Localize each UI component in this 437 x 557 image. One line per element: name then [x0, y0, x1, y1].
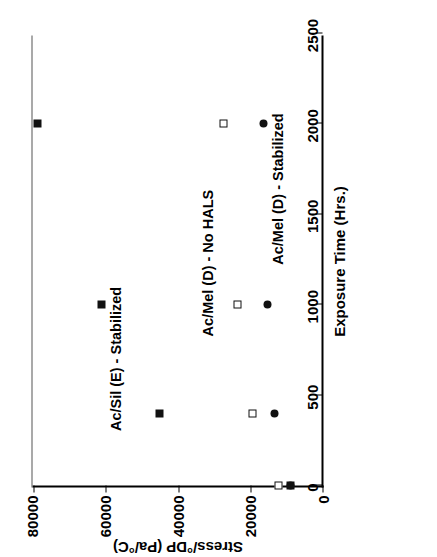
data-point-acmel-stab-1000: [263, 300, 271, 308]
data-point-acsil-2000: [33, 119, 41, 127]
x-axis-title: Exposure Time (Hrs.): [330, 35, 347, 487]
y-axis-title-text: Stress/°DP (Pa/°C): [112, 538, 242, 555]
y-tick-0: [322, 485, 323, 492]
y-tick-20000: [250, 485, 251, 492]
annotation-acmel-nohals: Ac/Mel (D) - No HALS: [199, 189, 215, 336]
y-tick-label-80000: 80000: [24, 495, 41, 537]
x-tick-label-0: 0: [303, 483, 320, 491]
x-tick-label-2000: 2000: [303, 109, 320, 142]
chart-figure: Stress/°DP (Pa/°C) 80000 60000 40000 200…: [0, 0, 437, 557]
y-tick-40000: [178, 485, 179, 492]
data-point-acmel-stab-2000: [259, 119, 267, 127]
x-tick-label-1500: 1500: [303, 199, 320, 232]
plot-frame: Ac/Sil (E) - Stabilized Ac/Mel (D) - No …: [32, 35, 323, 487]
y-axis-title: Stress/°DP (Pa/°C): [32, 537, 323, 557]
y-tick-label-20000: 20000: [242, 495, 259, 537]
data-point-acsil-1000: [97, 300, 105, 308]
data-point-acmel-nohals-2000: [219, 119, 227, 127]
y-tick-label-60000: 60000: [96, 495, 113, 537]
data-point-acsil-400: [155, 409, 163, 417]
y-tick-80000: [33, 485, 34, 492]
x-tick-label-2500: 2500: [303, 18, 320, 51]
annotation-acsil: Ac/Sil (E) - Stabilized: [107, 286, 123, 430]
x-tick-label-500: 500: [303, 384, 320, 409]
data-point-acmel-nohals-0: [274, 481, 282, 489]
data-point-acmel-nohals-400: [248, 409, 256, 417]
y-tick-60000: [105, 485, 106, 492]
scatter-plot: Stress/°DP (Pa/°C) 80000 60000 40000 200…: [0, 0, 437, 557]
y-tick-label-0: 0: [315, 495, 332, 503]
data-point-acmel-stab-0: [286, 481, 294, 489]
annotation-acmel-stab: Ac/Mel (D) - Stabilized: [269, 113, 285, 264]
data-point-acmel-nohals-1000: [233, 300, 241, 308]
y-tick-label-40000: 40000: [169, 495, 186, 537]
data-point-acmel-stab-400: [270, 409, 278, 417]
x-tick-label-1000: 1000: [303, 290, 320, 323]
